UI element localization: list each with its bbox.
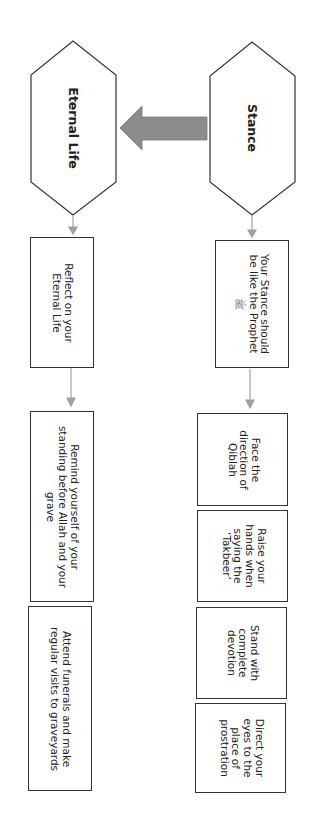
box-text-line: Raise your (254, 528, 266, 583)
box-text-line: direction of (237, 430, 249, 489)
box-text-line: complete (236, 628, 248, 677)
box-text-line: Eternal Life (50, 273, 62, 333)
step-box-prostration: Direct your eyes to the place of prostra… (195, 703, 286, 793)
box-text-line: hands when (243, 524, 255, 588)
step-box-takbeer: Raise your hands when saying the ‘Takbee… (197, 510, 288, 602)
step-box-qiblah: Face the direction of Qiblah (197, 413, 288, 506)
box-text-line: devotion (224, 630, 236, 676)
step-box-devotion: Stand with complete devotion (196, 607, 287, 699)
stance-label: Stance (245, 104, 260, 152)
box-text-line: standing before Allah and your (56, 425, 68, 587)
step-box-funerals: Attend funerals and make regular visits … (28, 606, 92, 791)
box-text-line: ‘Takbeer’ (219, 532, 231, 580)
box-text-line: Direct your (252, 719, 264, 777)
honorific-glyph: ﷺ (234, 298, 245, 310)
box-text-line: Remind yourself of your (68, 444, 80, 570)
eternal-header-box: Reflect on your Eternal Life (30, 237, 94, 368)
box-text-line: regular visits to graveyards (48, 626, 60, 770)
box-text-line: grave (44, 491, 56, 521)
box-text-line: Your Stance should (259, 254, 271, 354)
step-box-remind: Remind yourself of your standing before … (30, 411, 94, 602)
box-text-line: Qiblah (225, 443, 237, 477)
box-text-line: Reflect on your (62, 263, 74, 343)
box-text-line: saying the (231, 529, 243, 584)
box-text-line: eyes to the (241, 718, 253, 777)
box-text-line: Stand with (247, 625, 259, 681)
stance-header-box: Your Stance should be like the Prophet ﷺ (215, 240, 289, 368)
box-text-line: Attend funerals and make (60, 630, 72, 766)
box-text-line: place of (229, 727, 241, 769)
box-text-line: Face the (248, 437, 260, 481)
eternal-life-label: Eternal Life (66, 87, 81, 168)
box-text-line: be like the Prophet (247, 255, 259, 354)
big-left-arrow-icon (120, 106, 207, 150)
box-text-line: prostration (217, 719, 229, 777)
